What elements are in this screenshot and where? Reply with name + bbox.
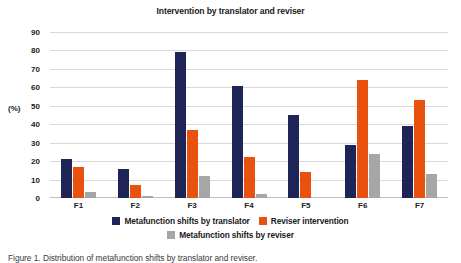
bar[interactable] xyxy=(288,115,299,198)
legend-row-primary: Metafunction shifts by translatorReviser… xyxy=(0,216,461,226)
chart-legend: Metafunction shifts by translatorReviser… xyxy=(0,216,461,244)
legend-item[interactable]: Metafunction shifts by translator xyxy=(112,216,249,226)
x-axis-tick-f7: F7 xyxy=(391,201,448,210)
bar[interactable] xyxy=(369,154,380,198)
y-axis-tick: 30 xyxy=(31,138,40,147)
bar-group-f6 xyxy=(334,32,391,198)
bar[interactable] xyxy=(85,192,96,198)
bar[interactable] xyxy=(232,86,243,199)
x-axis-tick-f1: F1 xyxy=(50,201,107,210)
legend-swatch-icon xyxy=(259,217,267,225)
bar[interactable] xyxy=(300,172,311,198)
legend-item[interactable]: Reviser intervention xyxy=(259,216,349,226)
bar[interactable] xyxy=(118,169,129,199)
legend-item[interactable]: Metafunction shifts by reviser xyxy=(167,230,294,240)
legend-swatch-icon xyxy=(112,217,120,225)
y-axis-tick: 10 xyxy=(31,175,40,184)
bar-group-f4 xyxy=(221,32,278,198)
y-axis-tick: 20 xyxy=(31,157,40,166)
y-axis-tick: 40 xyxy=(31,120,40,129)
y-axis-tick: 60 xyxy=(31,83,40,92)
y-axis-tick-labels: 9080706050403020100 xyxy=(0,32,46,198)
y-axis-tick: 80 xyxy=(31,46,40,55)
x-axis-tick-f4: F4 xyxy=(221,201,278,210)
bar[interactable] xyxy=(73,167,84,198)
bar[interactable] xyxy=(175,52,186,198)
y-axis-tick: 90 xyxy=(31,28,40,37)
bar-group-f1 xyxy=(50,32,107,198)
legend-label: Metafunction shifts by translator xyxy=(124,216,249,226)
bar[interactable] xyxy=(357,80,368,198)
bar[interactable] xyxy=(256,194,267,198)
y-axis-tick: 0 xyxy=(36,194,40,203)
bar[interactable] xyxy=(426,174,437,198)
chart-figure: Intervention by translator and reviser (… xyxy=(0,0,461,263)
bar-group-f3 xyxy=(164,32,221,198)
bar-groups xyxy=(50,32,448,198)
bar[interactable] xyxy=(130,185,141,198)
chart-title: Intervention by translator and reviser xyxy=(0,6,461,16)
bar[interactable] xyxy=(244,157,255,198)
y-axis-tick: 50 xyxy=(31,101,40,110)
bar-group-f5 xyxy=(277,32,334,198)
y-axis-tick: 70 xyxy=(31,64,40,73)
bar[interactable] xyxy=(414,100,425,198)
bar-group-f2 xyxy=(107,32,164,198)
x-axis-tick-f3: F3 xyxy=(164,201,221,210)
bar-group-f7 xyxy=(391,32,448,198)
legend-row-secondary: Metafunction shifts by reviser xyxy=(0,230,461,240)
x-axis-tick-f2: F2 xyxy=(107,201,164,210)
bar[interactable] xyxy=(187,130,198,198)
legend-swatch-icon xyxy=(167,231,175,239)
bar[interactable] xyxy=(199,176,210,198)
legend-label: Reviser intervention xyxy=(271,216,349,226)
bar[interactable] xyxy=(402,126,413,198)
legend-label: Metafunction shifts by reviser xyxy=(179,230,294,240)
bar[interactable] xyxy=(345,145,356,198)
figure-caption: Figure 1. Distribution of metafunction s… xyxy=(8,253,456,263)
x-axis-tick-f5: F5 xyxy=(277,201,334,210)
x-axis-tick-labels: F1F2F3F4F5F6F7 xyxy=(50,201,448,210)
bar[interactable] xyxy=(142,196,153,198)
bar[interactable] xyxy=(61,159,72,198)
x-axis-tick-f6: F6 xyxy=(334,201,391,210)
